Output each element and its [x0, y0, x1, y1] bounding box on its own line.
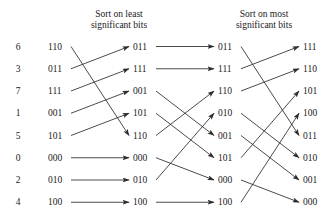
- bit-value-column-stage-2-row3: 110: [218, 86, 232, 96]
- bit-value-column-stage-1-row3: 001: [133, 86, 148, 96]
- caption-least-line1: Sort on least: [95, 9, 143, 19]
- bit-value-column-stage-2-row2: 111: [218, 64, 232, 74]
- bit-value-column-input-row3: 111: [48, 86, 62, 96]
- caption-most-line2: significant bits: [236, 20, 293, 30]
- caption-most-line1: Sort on most: [240, 9, 289, 19]
- edge-stage1-r5-to-r4: [71, 113, 129, 135]
- bit-value-column-stage-1-row6: 000: [133, 153, 148, 163]
- edge-stage3-r1-to-r5: [241, 47, 299, 136]
- bit-value-column-stage-2-row1: 011: [218, 42, 232, 52]
- captions-layer: Sort on least significant bits Sort on m…: [91, 9, 293, 30]
- edge-stage1-r1-to-r5: [71, 47, 129, 136]
- edge-stage3-r2-to-r1: [241, 47, 299, 69]
- bit-value-column-stage-3-row4: 100: [303, 108, 318, 118]
- bit-value-column-stage-2-row5: 001: [218, 131, 233, 141]
- bit-value-column-stage-1-row5: 110: [133, 131, 147, 141]
- bit-value-column-stage-3-row8: 000: [303, 197, 318, 207]
- edges-layer: [71, 47, 299, 203]
- edge-stage2-r4-to-r6: [156, 113, 214, 158]
- bit-value-column-input-row2: 011: [48, 64, 62, 74]
- edge-stage1-r3-to-r2: [71, 69, 129, 91]
- radix-sort-diagram: Sort on least significant bits Sort on m…: [0, 0, 331, 219]
- edge-stage3-r4-to-r6: [241, 113, 299, 158]
- bit-value-column-stage-2-row7: 000: [218, 175, 233, 185]
- bit-value-column-stage-2-row4: 010: [218, 108, 233, 118]
- caption-least-line2: significant bits: [91, 20, 148, 30]
- edge-stage2-r7-to-r4: [156, 113, 214, 180]
- edge-stage2-r6-to-r7: [156, 158, 214, 180]
- bit-value-column-stage-3-row6: 010: [303, 153, 318, 163]
- bit-value-column-input-row6: 000: [48, 153, 63, 163]
- indices-layer: 63715024: [16, 42, 21, 208]
- edge-stage3-r7-to-r8: [241, 180, 299, 202]
- bit-value-column-input-row7: 010: [48, 175, 63, 185]
- row-index-label: 2: [16, 175, 21, 185]
- row-index-label: 4: [16, 197, 21, 207]
- diagram-canvas: Sort on least significant bits Sort on m…: [0, 0, 331, 219]
- bit-value-column-stage-2-row8: 100: [218, 197, 233, 207]
- row-index-label: 0: [16, 153, 21, 163]
- bit-value-column-stage-3-row3: 101: [303, 86, 318, 96]
- bit-value-column-stage-1-row1: 011: [133, 42, 147, 52]
- bit-value-column-input-row5: 101: [48, 131, 63, 141]
- edge-stage3-r6-to-r3: [241, 91, 299, 158]
- bit-value-column-stage-3-row5: 011: [303, 131, 317, 141]
- row-index-label: 1: [16, 108, 21, 118]
- bit-value-column-stage-2-row6: 101: [218, 153, 233, 163]
- bit-value-column-stage-3-row7: 001: [303, 175, 318, 185]
- edge-stage3-r8-to-r4: [241, 113, 299, 202]
- bit-value-column-stage-1-row2: 111: [133, 64, 147, 74]
- bit-value-column-stage-1-row4: 101: [133, 108, 148, 118]
- bit-value-column-input-row1: 110: [48, 42, 62, 52]
- bit-value-column-stage-1-row8: 100: [133, 197, 148, 207]
- row-index-label: 7: [16, 86, 21, 96]
- bit-value-column-stage-3-row1: 111: [303, 42, 317, 52]
- bit-value-column-input-row8: 100: [48, 197, 63, 207]
- row-index-label: 6: [16, 42, 21, 52]
- row-index-label: 3: [16, 64, 21, 74]
- edge-stage1-r4-to-r3: [71, 91, 129, 113]
- values-layer: 1100111110011010000101000111110011011100…: [48, 42, 318, 208]
- edge-stage1-r2-to-r1: [71, 47, 129, 69]
- row-index-label: 5: [16, 131, 21, 141]
- bit-value-column-stage-1-row7: 010: [133, 175, 148, 185]
- edge-stage3-r3-to-r2: [241, 69, 299, 91]
- bit-value-column-input-row4: 001: [48, 108, 63, 118]
- bit-value-column-stage-3-row2: 110: [303, 64, 317, 74]
